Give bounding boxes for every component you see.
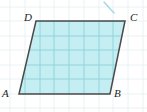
parallelogram-figure: A B C D (0, 0, 147, 112)
diagonal-tick-icon (104, 2, 114, 13)
parallelogram-fill (19, 21, 125, 94)
vertex-label-d: D (24, 12, 32, 23)
vertex-label-c: C (130, 12, 137, 23)
figure-canvas (0, 0, 147, 112)
vertex-label-a: A (2, 88, 9, 99)
vertex-label-b: B (114, 88, 121, 99)
